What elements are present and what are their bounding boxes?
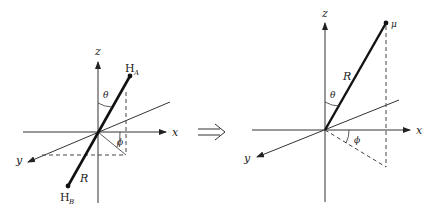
left-bond-label: R bbox=[79, 172, 88, 185]
svg-text:B: B bbox=[68, 198, 74, 206]
right-y-axis bbox=[257, 100, 399, 157]
right-x-label: x bbox=[416, 124, 423, 137]
mu-label: μ bbox=[391, 19, 397, 29]
left-theta-label: θ bbox=[103, 90, 109, 100]
right-vector-label: R bbox=[342, 70, 351, 83]
left-phi-label: ϕ bbox=[117, 137, 123, 147]
left-bond-line bbox=[68, 76, 130, 186]
right-theta-label: θ bbox=[330, 90, 336, 100]
right-vector-line bbox=[325, 23, 386, 130]
implies-arrow bbox=[198, 124, 225, 140]
atom-b-label: H B bbox=[60, 191, 74, 206]
atom-a-label: H A bbox=[125, 62, 139, 77]
left-z-label: z bbox=[94, 45, 101, 58]
right-z-label: z bbox=[321, 7, 328, 20]
left-diagram: z x y θ ϕ R H A H B bbox=[15, 45, 179, 206]
right-diagram: z x y μ R θ ϕ bbox=[243, 7, 423, 202]
svg-text:A: A bbox=[133, 69, 139, 77]
right-phi-arc bbox=[346, 130, 349, 143]
left-y-label: y bbox=[15, 154, 23, 167]
coordinate-transform-diagram: z x y θ ϕ R H A H B z x y μ R bbox=[0, 0, 438, 216]
atom-b-dot bbox=[66, 184, 71, 189]
right-phi-label: ϕ bbox=[354, 135, 360, 145]
mu-point-dot bbox=[384, 21, 389, 26]
left-theta-arc bbox=[98, 103, 112, 107]
left-x-label: x bbox=[172, 126, 179, 139]
right-y-label: y bbox=[243, 152, 251, 165]
